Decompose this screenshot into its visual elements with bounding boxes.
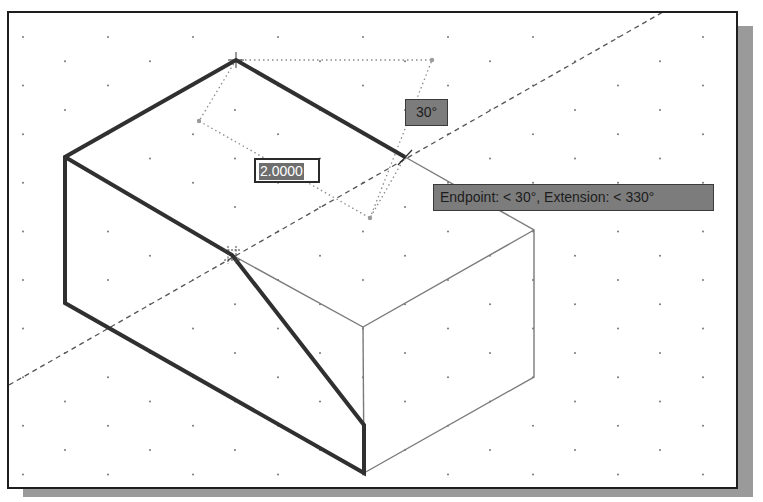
guide-grip-top-right — [430, 58, 434, 62]
crosshair-cursor-icon — [228, 52, 244, 68]
dimension-guides — [199, 60, 432, 218]
guide-grip-bottom — [368, 216, 372, 220]
thick-edges — [65, 60, 405, 473]
dynamic-input-value: 2.0000 — [259, 163, 304, 180]
viewport-shadow-right — [737, 26, 753, 497]
polar-angle-tooltip: 30° — [405, 99, 448, 126]
drawing-canvas[interactable] — [9, 13, 736, 487]
object-snap-tooltip: Endpoint: < 30°, Extension: < 330° — [433, 184, 714, 211]
drawing-viewport[interactable]: 2.0000 30° Endpoint: < 30°, Extension: <… — [7, 11, 738, 489]
dynamic-input-field[interactable]: 2.0000 — [254, 158, 320, 183]
guide-grip-left — [197, 119, 201, 123]
